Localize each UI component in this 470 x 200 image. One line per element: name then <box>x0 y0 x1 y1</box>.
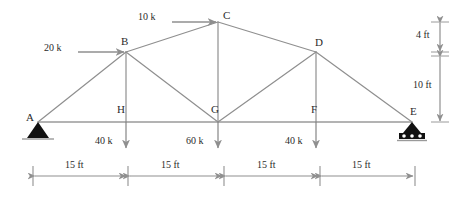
node-label-E: E <box>410 106 417 117</box>
dim-10ft <box>431 56 449 122</box>
dimension-label-span-G-F: 15 ft <box>257 160 276 170</box>
truss-supports <box>22 122 427 141</box>
node-label-C: C <box>223 10 230 21</box>
truss-member-GD <box>218 52 316 122</box>
truss-member-CD <box>218 22 316 52</box>
load-label-load-60k-G: 60 k <box>186 136 204 146</box>
node-label-A: A <box>26 112 34 123</box>
dimension-label-span-A-H: 15 ft <box>65 160 84 170</box>
truss-member-DE <box>316 52 412 122</box>
pin-support <box>22 122 54 139</box>
load-label-load-40k-H: 40 k <box>95 136 113 146</box>
vertical-dimension-lines <box>431 22 449 122</box>
truss-diagram: ABCDEFGH20 k10 k40 k60 k40 k4 ft10 ft15 … <box>0 0 470 200</box>
truss-member-AB <box>38 52 126 122</box>
truss-drawing-canvas <box>0 0 470 200</box>
dimension-label-span-H-G: 15 ft <box>161 160 180 170</box>
node-label-B: B <box>121 36 128 47</box>
node-label-F: F <box>311 104 317 115</box>
dimension-label-dim-4ft: 4 ft <box>416 30 430 40</box>
dim-4ft <box>431 22 449 52</box>
dimension-label-span-F-E: 15 ft <box>352 160 371 170</box>
truss-member-BC <box>126 22 218 52</box>
load-label-load-40k-F: 40 k <box>285 136 303 146</box>
node-label-D: D <box>315 37 323 48</box>
load-label-load-10k-C: 10 k <box>138 12 156 22</box>
load-label-load-20k-B: 20 k <box>44 43 62 53</box>
roller-support <box>397 122 427 141</box>
dimension-label-dim-10ft: 10 ft <box>413 80 432 90</box>
truss-members <box>38 22 412 122</box>
truss-member-BG <box>126 52 218 122</box>
node-label-H: H <box>117 104 125 115</box>
node-label-G: G <box>211 104 219 115</box>
